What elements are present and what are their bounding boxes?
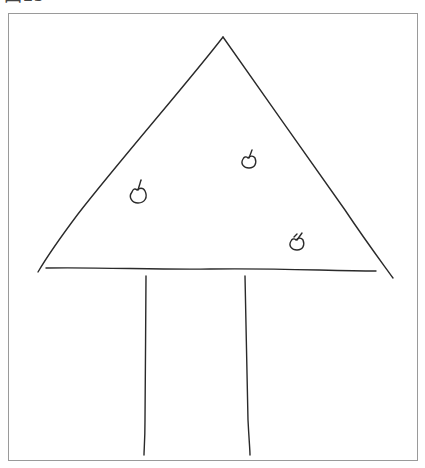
trunk-right-line (245, 276, 250, 455)
trunk-left-line (144, 276, 146, 455)
canopy-base-line (46, 268, 376, 271)
apple-icon (290, 233, 304, 250)
apple-icon (242, 150, 256, 168)
apple-icon (130, 180, 146, 203)
tree-drawing (0, 0, 425, 468)
canopy-left-edge (38, 37, 223, 272)
